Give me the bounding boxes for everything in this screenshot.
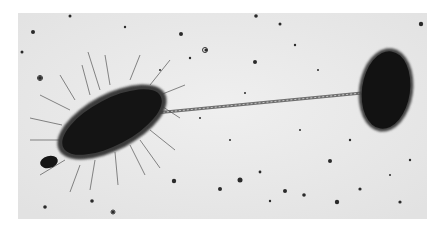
micrograph-svg xyxy=(18,13,427,219)
micrograph-photo xyxy=(18,13,427,219)
